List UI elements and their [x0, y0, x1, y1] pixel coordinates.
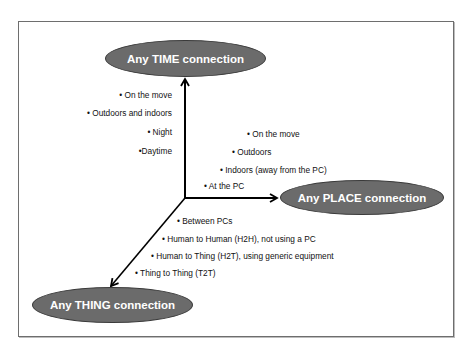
place-connection-title: Any PLACE connection [298, 192, 426, 204]
place-item: • At the PC [204, 181, 244, 191]
thing-connection-ellipse: Any THING connection [32, 287, 193, 323]
time-connection-ellipse: Any TIME connection [105, 40, 266, 77]
time-item: •Daytime [139, 146, 172, 156]
place-item: • Indoors (away from the PC) [220, 165, 327, 175]
thing-item: • Thing to Thing (T2T) [135, 268, 216, 278]
place-connection-ellipse: Any PLACE connection [280, 180, 444, 215]
time-connection-title: Any TIME connection [127, 53, 244, 65]
thing-item: • Human to Thing (H2T), using generic eq… [151, 251, 334, 261]
time-item: • On the move [119, 90, 172, 100]
place-item: • On the move [247, 129, 300, 139]
thing-item: • Human to Human (H2H), not using a PC [162, 234, 316, 244]
place-item: • Outdoors [232, 147, 271, 157]
thing-connection-title: Any THING connection [50, 299, 175, 311]
time-item: • Night [147, 127, 172, 137]
time-item: • Outdoors and indoors [87, 108, 172, 118]
thing-item: • Between PCs [177, 216, 232, 226]
